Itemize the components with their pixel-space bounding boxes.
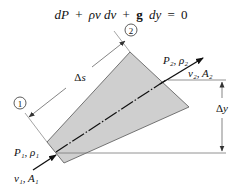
- ds-extension-line-1: [25, 113, 47, 142]
- streamtube-diagram: dP + ρv dv + g dy = 0 Δs Δy 1 2 P₂, ρ₂: [0, 0, 242, 190]
- eq-plus-1: +: [75, 7, 82, 22]
- station-1-number: 1: [18, 99, 23, 109]
- section-1-pressure-density-label: P₁, ρ₁: [13, 146, 39, 158]
- bernoulli-differential-equation: dP + ρv dv + g dy = 0: [54, 7, 187, 22]
- section-1-velocity-area-label: v₁, A₁: [14, 172, 39, 184]
- station-2-number: 2: [129, 26, 134, 36]
- eq-zero: 0: [181, 7, 188, 22]
- stream-tube-element: [47, 52, 189, 163]
- eq-dy: dy: [149, 7, 162, 22]
- eq-equals: =: [167, 7, 174, 22]
- eq-rho-v-dv: ρv dv: [88, 7, 117, 22]
- section-2-velocity-area-label: v₂, A₂: [188, 67, 213, 79]
- ds-extension-line-2: [114, 31, 130, 52]
- eq-plus-2: +: [123, 7, 130, 22]
- station-1-marker: 1: [14, 97, 26, 109]
- station-2-marker: 2: [125, 24, 137, 36]
- section-2-pressure-density-label: P₂, ρ₂: [162, 54, 188, 66]
- delta-y-label: Δy: [216, 102, 228, 114]
- delta-s-label: Δs: [74, 71, 85, 83]
- eq-dP: dP: [54, 7, 69, 22]
- eq-gravity-vector: g: [136, 7, 143, 22]
- ds-dimension-line-lower: [29, 88, 66, 117]
